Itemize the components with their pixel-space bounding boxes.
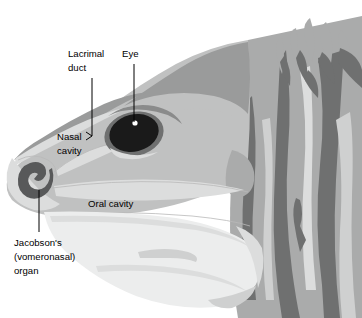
eye-highlight [132, 120, 137, 125]
label-jacobsons-line1: Jacobson's [14, 237, 62, 248]
label-oral-cavity: Oral cavity [88, 198, 134, 209]
label-jacobsons-line2: (vomeronasal) [14, 251, 75, 262]
label-jacobsons-line3: organ [14, 265, 39, 276]
label-nasal-cavity-line2: cavity [57, 145, 82, 156]
label-nasal-cavity-line1: Nasal [57, 131, 82, 142]
label-eye: Eye [122, 48, 139, 59]
diagram-canvas: Lacrimal duct Eye Nasal cavity Oral cavi… [0, 0, 362, 318]
anatomical-diagram: Lacrimal duct Eye Nasal cavity Oral cavi… [0, 0, 362, 318]
label-lacrimal-duct-line1: Lacrimal [68, 48, 104, 59]
label-lacrimal-duct-line2: duct [68, 62, 86, 73]
